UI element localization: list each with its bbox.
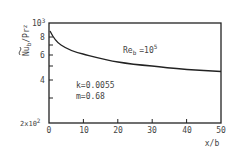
chart: 103 8 6 4 2x102 0 10 20 30 40 50 x/b Nub… xyxy=(0,0,236,154)
tilde-mark xyxy=(19,47,21,55)
xtick-label-40: 40 xyxy=(182,126,192,135)
svg-text:Nub/Prz: Nub/Prz xyxy=(21,24,32,56)
xtick-label-10: 10 xyxy=(79,126,89,135)
y-axis-label: Nub/Prz xyxy=(19,24,32,56)
re-annotation: Reb=105 xyxy=(123,43,158,56)
ytick-label-1000: 103 xyxy=(32,17,46,28)
xtick-label-30: 30 xyxy=(147,126,157,135)
ytick-label-800: 8 xyxy=(40,33,45,42)
ytick-label-400: 4 xyxy=(40,76,45,85)
xtick-label-20: 20 xyxy=(113,126,123,135)
xtick-label-0: 0 xyxy=(47,126,52,135)
plot-frame xyxy=(49,23,221,123)
m-annotation: m=0.68 xyxy=(76,92,105,101)
xtick-label-50: 50 xyxy=(216,126,226,135)
x-axis-label: x/b xyxy=(205,139,220,148)
k-annotation: k=0.0055 xyxy=(76,81,115,90)
ytick-label-200: 2x102 xyxy=(20,117,41,128)
ytick-label-600: 6 xyxy=(40,51,45,60)
